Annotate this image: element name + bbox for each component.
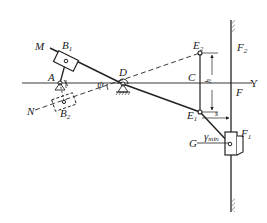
label-d: D <box>118 66 127 78</box>
label-y: Y <box>250 77 258 89</box>
pin-b1 <box>64 59 68 63</box>
pin-e1 <box>198 110 202 114</box>
label-gamma-min: γmin <box>204 130 219 143</box>
label-g: G <box>189 137 197 149</box>
label-e2: E2 <box>192 39 204 53</box>
label-f: F <box>235 86 243 98</box>
label-b1: B1 <box>62 39 72 53</box>
label-b2: B2 <box>60 107 71 121</box>
label-n: N <box>26 105 35 117</box>
label-m: M <box>34 40 45 52</box>
label-h: h <box>204 79 213 83</box>
mechanism-diagram: M B1 A N B2 D ψ E2 C h E1 s γmin G F1 F2… <box>0 0 267 223</box>
label-a: A <box>47 71 55 83</box>
wall-hatch-bottom <box>232 198 235 212</box>
label-f1: F1 <box>240 127 251 141</box>
label-psi: ψ <box>97 78 104 90</box>
wall-hatch-top <box>232 20 235 32</box>
label-c: C <box>188 71 196 83</box>
pin-b2 <box>62 100 65 103</box>
label-f2: F2 <box>236 41 248 55</box>
label-s: s <box>215 109 218 118</box>
link-d-to-e1 <box>123 84 200 112</box>
